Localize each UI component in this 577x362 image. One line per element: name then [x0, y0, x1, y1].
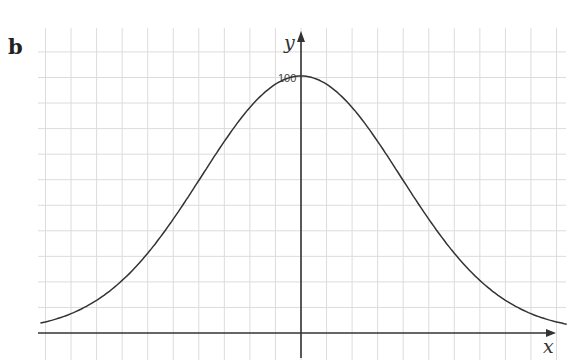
axes: x y 100 — [38, 31, 556, 358]
y-axis-arrow-icon — [297, 31, 305, 42]
bell-curve-chart: x y 100 — [0, 0, 577, 362]
x-axis-label: x — [543, 335, 554, 357]
y-axis-label: y — [283, 31, 295, 53]
grid — [38, 28, 566, 360]
bell-curve-line — [40, 76, 566, 324]
